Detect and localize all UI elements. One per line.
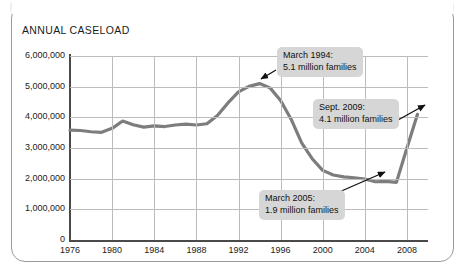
gridline-vertical xyxy=(239,56,240,240)
y-axis-tick-label: 1,000,000 xyxy=(25,203,65,213)
gridline-vertical xyxy=(196,56,197,240)
gridline-vertical xyxy=(365,56,366,240)
gridline-vertical xyxy=(154,56,155,240)
callout-line-1: March 2005: xyxy=(265,193,339,205)
gridline-vertical xyxy=(407,56,408,240)
y-axis-tick-label: 4,000,000 xyxy=(25,111,65,121)
x-axis-tick-label: 1984 xyxy=(144,245,164,255)
gridline-horizontal xyxy=(70,179,428,180)
gridline-horizontal xyxy=(70,148,428,149)
callout-line-2: 4.1 million families xyxy=(319,114,393,126)
x-axis-tick-label: 2004 xyxy=(355,245,375,255)
x-axis-tick-label: 1980 xyxy=(102,245,122,255)
chart-figure: ANNUAL CASELOAD 01,000,0002,000,0003,000… xyxy=(0,0,464,271)
x-axis-line xyxy=(69,240,428,242)
x-axis-tick-label: 2000 xyxy=(313,245,333,255)
callout-line-1: Sept. 2009: xyxy=(319,102,393,114)
y-axis-tick-label: 5,000,000 xyxy=(25,81,65,91)
y-axis-tick-label: 2,000,000 xyxy=(25,173,65,183)
x-axis-tick-label: 1976 xyxy=(60,245,80,255)
y-axis-tick-label: 0 xyxy=(60,234,65,244)
card-frame-top-mask xyxy=(12,2,453,14)
gridline-horizontal xyxy=(70,209,428,210)
x-axis-tick-label: 1992 xyxy=(228,245,248,255)
gridline-vertical xyxy=(112,56,113,240)
plot-area xyxy=(70,56,428,240)
x-axis-tick-label: 1988 xyxy=(186,245,206,255)
annotation-callout-march-2005: March 2005: 1.9 million families xyxy=(259,190,345,220)
y-axis-tick-label: 6,000,000 xyxy=(25,50,65,60)
x-axis-tick-label: 2008 xyxy=(397,245,417,255)
callout-line-2: 5.1 million families xyxy=(283,62,357,74)
gridline-horizontal xyxy=(70,87,428,88)
annotation-callout-sept-2009: Sept. 2009: 4.1 million families xyxy=(313,99,399,129)
gridline-horizontal xyxy=(70,56,428,57)
x-axis-tick-label: 1996 xyxy=(271,245,291,255)
callout-line-1: March 1994: xyxy=(283,50,357,62)
annotation-callout-march-1994: March 1994: 5.1 million families xyxy=(277,47,363,77)
y-axis-tick-labels: 01,000,0002,000,0003,000,0004,000,0005,0… xyxy=(0,0,65,271)
y-axis-tick-label: 3,000,000 xyxy=(25,142,65,152)
callout-line-2: 1.9 million families xyxy=(265,205,339,217)
